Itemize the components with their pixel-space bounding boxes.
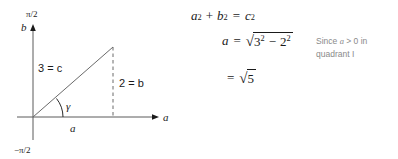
note-relation: > 0 — [344, 36, 358, 46]
equation-line-3: = √ 5 — [222, 70, 256, 88]
triangle-diagram: b π/2 −π/2 a 3 = c 2 = b a γ — [0, 0, 185, 159]
relation-equals-2: = — [234, 33, 241, 49]
radicand-group-result: 5 — [247, 69, 257, 87]
adjacent-side-label: a — [70, 122, 76, 134]
relation-equals-1: = — [233, 8, 240, 24]
term-a: a — [191, 8, 198, 24]
equation-line-1: a2 + b2 = c2 — [191, 8, 255, 24]
derivation-panel: a2 + b2 = c2 a = √ 32−22 = √ 5 Since a >… — [185, 0, 398, 159]
angle-label-gamma: γ — [66, 100, 71, 112]
radical-expression: √ 32−22 — [246, 33, 293, 51]
operator-minus: − — [269, 34, 276, 49]
note-prefix: Since — [316, 36, 340, 46]
note-suffix: in — [358, 36, 367, 46]
diagram-canvas: b π/2 −π/2 a 3 = c 2 = b a γ — [0, 0, 185, 159]
operator-plus: + — [206, 8, 213, 24]
opposite-side-label: 2 = b — [119, 77, 144, 89]
note-second-line: quadrant I — [316, 49, 354, 59]
radicand-group: 32−22 — [253, 32, 293, 50]
radical-expression-result: √ 5 — [239, 70, 256, 88]
angle-arc — [57, 99, 64, 118]
relation-equals-3: = — [227, 70, 234, 86]
y-axis-top-tick-label: π/2 — [26, 9, 38, 19]
figure-root: b π/2 −π/2 a 3 = c 2 = b a γ a2 + b2 = c… — [0, 0, 398, 159]
x-axis-label: a — [163, 111, 169, 123]
y-axis-bottom-tick-label: −π/2 — [14, 145, 31, 155]
x-axis-arrowhead — [152, 114, 159, 120]
justification-note: Since a > 0 in quadrant I — [316, 35, 398, 61]
hypotenuse-label: 3 = c — [38, 62, 63, 74]
triangle-hypotenuse — [33, 47, 113, 117]
y-axis-arrowhead — [30, 24, 36, 31]
radicand-value-5: 5 — [248, 71, 255, 86]
y-axis-label: b — [21, 21, 27, 33]
equation-line-2: a = √ 32−22 — [222, 33, 293, 51]
radicand-exponent-3: 2 — [261, 34, 265, 43]
term-c: c — [245, 8, 251, 24]
radicand-exponent-2: 2 — [287, 34, 291, 43]
solve-variable-a: a — [222, 33, 229, 49]
term-b: b — [217, 8, 224, 24]
